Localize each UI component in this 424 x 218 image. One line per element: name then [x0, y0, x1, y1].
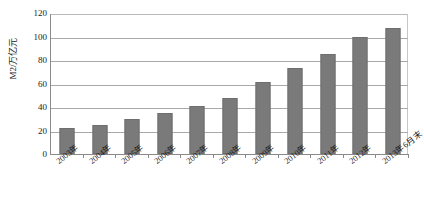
figure-caption	[0, 211, 416, 218]
y-axis-tick-label: 0	[43, 150, 48, 159]
bars-layer	[51, 14, 408, 154]
bar-slot	[181, 14, 214, 154]
bar-slot	[246, 14, 279, 154]
x-axis-tick-labels: 2003年2004年2005年2006年2007年2008年2009年2010年…	[50, 158, 408, 206]
y-axis-tick-label: 20	[38, 127, 47, 136]
bar-slot	[311, 14, 344, 154]
x-axis-tick-mark	[408, 154, 409, 158]
y-axis-tick-label: 80	[38, 56, 47, 65]
y-axis-tick-label: 100	[34, 33, 48, 42]
bar-slot	[279, 14, 312, 154]
bar-slot	[116, 14, 149, 154]
bar-slot	[149, 14, 182, 154]
bar-slot	[214, 14, 247, 154]
y-axis-tick-label: 40	[38, 103, 47, 112]
bar-slot	[376, 14, 409, 154]
bar[interactable]	[353, 37, 368, 154]
bar-slot	[344, 14, 377, 154]
y-axis-tick-label: 60	[38, 80, 47, 89]
bar[interactable]	[385, 28, 400, 154]
bar[interactable]	[320, 54, 335, 154]
bar-slot	[84, 14, 117, 154]
y-axis-tick-label: 120	[34, 9, 48, 18]
plot-area	[50, 14, 408, 155]
bar[interactable]	[288, 68, 303, 154]
bar-slot	[51, 14, 84, 154]
y-axis-tick-labels: 020406080100120	[26, 14, 50, 155]
y-axis-title: M2/万亿元	[6, 24, 19, 94]
